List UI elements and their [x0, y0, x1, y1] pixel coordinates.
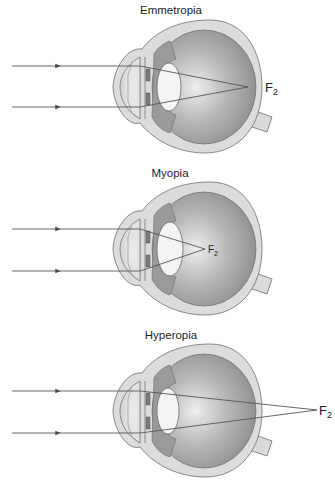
title-myopia: Myopia	[151, 167, 189, 179]
diagram-hyperopia: Hyperopia F2	[12, 329, 332, 477]
eye-illustration	[113, 20, 272, 153]
eye-illustration	[113, 344, 272, 477]
eye-refraction-diagram: Emmetropia F2 Myopia F2 Hyperopia	[0, 0, 335, 483]
title-emmetropia: Emmetropia	[140, 4, 203, 16]
diagram-emmetropia: Emmetropia F2	[12, 4, 278, 153]
focal-point-label: F2	[319, 403, 332, 420]
title-hyperopia: Hyperopia	[145, 329, 198, 341]
focal-point-label: F2	[265, 80, 278, 97]
diagram-myopia: Myopia F2	[12, 167, 272, 315]
eye-illustration	[113, 182, 272, 315]
lens	[157, 222, 183, 276]
